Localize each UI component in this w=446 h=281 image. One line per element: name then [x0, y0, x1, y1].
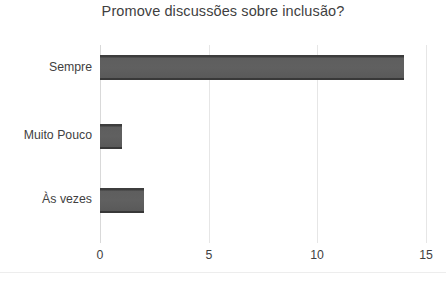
- x-axis-tick-10: 10: [297, 248, 337, 262]
- y-axis-label-as-vezes: Às vezes: [0, 192, 92, 206]
- plot-area: [100, 45, 426, 243]
- bar-muito-pouco: [100, 124, 122, 149]
- x-axis-tick-0: 0: [80, 248, 120, 262]
- x-axis-tick-5: 5: [189, 248, 229, 262]
- x-axis-tick-15: 15: [406, 248, 446, 262]
- y-axis-label-sempre: Sempre: [0, 60, 92, 74]
- bar-sempre: [100, 55, 404, 80]
- bar-as-vezes: [100, 188, 144, 213]
- gridline-15: [426, 45, 427, 243]
- chart-title: Promove discussões sobre inclusão?: [0, 3, 446, 19]
- page-edge-line: [0, 272, 446, 273]
- bar-chart: Promove discussões sobre inclusão? Sempr…: [0, 0, 446, 281]
- y-axis-label-muito-pouco: Muito Pouco: [0, 128, 92, 142]
